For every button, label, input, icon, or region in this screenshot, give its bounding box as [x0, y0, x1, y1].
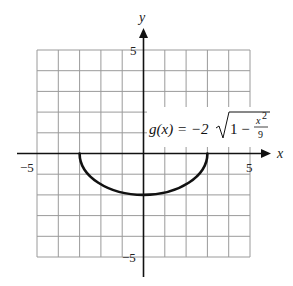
formula-denominator: 9 — [258, 129, 263, 140]
y-axis-label: y — [137, 10, 146, 25]
x-axis-arrow-icon — [261, 149, 271, 158]
formula-one-minus: 1 − — [230, 121, 250, 137]
formula-lhs: g(x) = −2 — [149, 121, 209, 138]
y-tick-label-neg5: −5 — [122, 250, 136, 265]
formula-numerator: x — [255, 115, 261, 126]
x-tick-label-neg5: −5 — [20, 160, 34, 175]
x-tick-label-5: 5 — [246, 160, 253, 175]
graph: x y −5 5 5 −5 g(x) = −2 1 − x 2 9 — [0, 0, 293, 286]
y-axis-arrow-icon — [139, 28, 148, 38]
axes — [17, 28, 271, 277]
formula-exponent: 2 — [262, 110, 267, 121]
x-axis-label: x — [276, 146, 284, 161]
y-tick-label-5: 5 — [130, 43, 137, 58]
